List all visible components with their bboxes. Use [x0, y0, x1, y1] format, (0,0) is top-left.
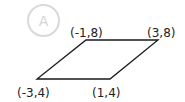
- vertex-label-bottom-left: (-3,4): [17, 87, 50, 99]
- parallelogram: [37, 40, 158, 79]
- vertex-label-bottom-right: (1,4): [92, 87, 120, 99]
- vertex-label-top-right: (3,8): [147, 27, 175, 39]
- vertex-label-top-left: (-1,8): [70, 27, 103, 39]
